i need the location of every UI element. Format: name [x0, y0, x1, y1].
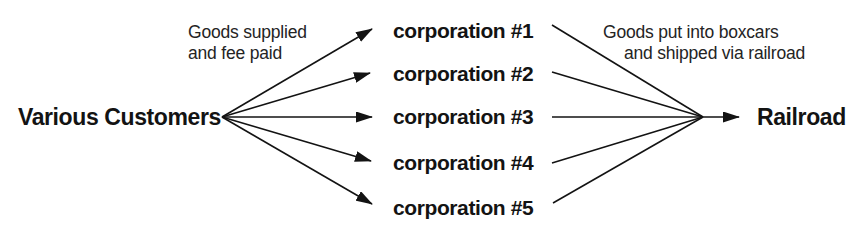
- arrow-customers-to-corporation-5: [222, 117, 372, 204]
- line-corporation-4-to-railroad: [552, 117, 703, 163]
- node-corporation-3: corporation #3: [393, 105, 533, 129]
- annotation-goods-supplied-line1: Goods supplied: [188, 22, 307, 43]
- flow-diagram: Various Customers corporation #1 corpora…: [0, 0, 854, 235]
- annotation-goods-supplied-line2: and fee paid: [188, 43, 307, 64]
- annotation-goods-shipped-line1: Goods put into boxcars: [603, 22, 805, 43]
- node-railroad: Railroad: [757, 104, 846, 131]
- node-corporation-4: corporation #4: [393, 151, 533, 175]
- node-various-customers: Various Customers: [18, 104, 221, 131]
- annotation-goods-shipped: Goods put into boxcars and shipped via r…: [603, 22, 805, 64]
- node-corporation-1: corporation #1: [393, 19, 533, 43]
- annotation-goods-shipped-line2: and shipped via railroad: [603, 43, 805, 64]
- arrow-customers-to-corporation-4: [222, 117, 371, 161]
- arrow-customers-to-corporation-2: [222, 73, 370, 117]
- node-corporation-2: corporation #2: [393, 62, 533, 86]
- annotation-goods-supplied: Goods supplied and fee paid: [188, 22, 307, 64]
- line-corporation-2-to-railroad: [552, 72, 703, 117]
- line-corporation-5-to-railroad: [553, 117, 703, 203]
- node-corporation-5: corporation #5: [393, 196, 533, 220]
